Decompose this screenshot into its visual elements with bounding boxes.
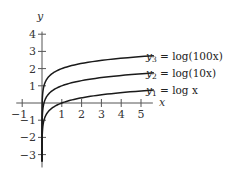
- y-tick-label: 4: [29, 28, 36, 41]
- y-axis-label: y: [36, 10, 44, 23]
- series-label-y3: y3 = log(100x): [145, 50, 223, 64]
- y-tick-label: 3: [29, 45, 36, 58]
- series-label-y2: y2 = log(10x): [145, 67, 216, 81]
- x-tick-label: 2: [78, 108, 85, 121]
- log-functions-chart: −1123454321−1−2−3xyy3 = log(100x)y2 = lo…: [0, 0, 232, 169]
- x-tick-label: 4: [118, 108, 125, 121]
- y-tick-label: 1: [29, 80, 36, 93]
- x-tick-label: 5: [138, 108, 145, 121]
- x-axis-label: x: [159, 96, 166, 109]
- y-tick-label: −3: [20, 149, 36, 162]
- y-tick-label: 2: [29, 63, 36, 76]
- y-tick-label: −2: [20, 131, 36, 144]
- axes: [16, 32, 153, 168]
- x-tick-label: 3: [98, 108, 105, 121]
- series-label-y1: y1 = log x: [145, 84, 198, 98]
- y-tick-label: −1: [20, 114, 36, 127]
- x-tick-label: 1: [58, 108, 65, 121]
- curve-1: [42, 90, 154, 161]
